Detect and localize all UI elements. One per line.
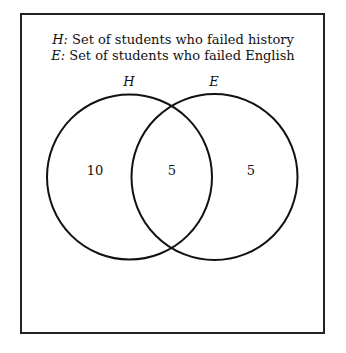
set-label-e: E xyxy=(209,74,219,89)
circle-e xyxy=(132,94,298,260)
circle-h xyxy=(47,95,212,260)
region-intersection-count: 5 xyxy=(168,163,176,178)
region-h-only-count: 10 xyxy=(87,163,104,178)
set-label-h: H xyxy=(123,74,134,89)
region-e-only-count: 5 xyxy=(247,163,255,178)
